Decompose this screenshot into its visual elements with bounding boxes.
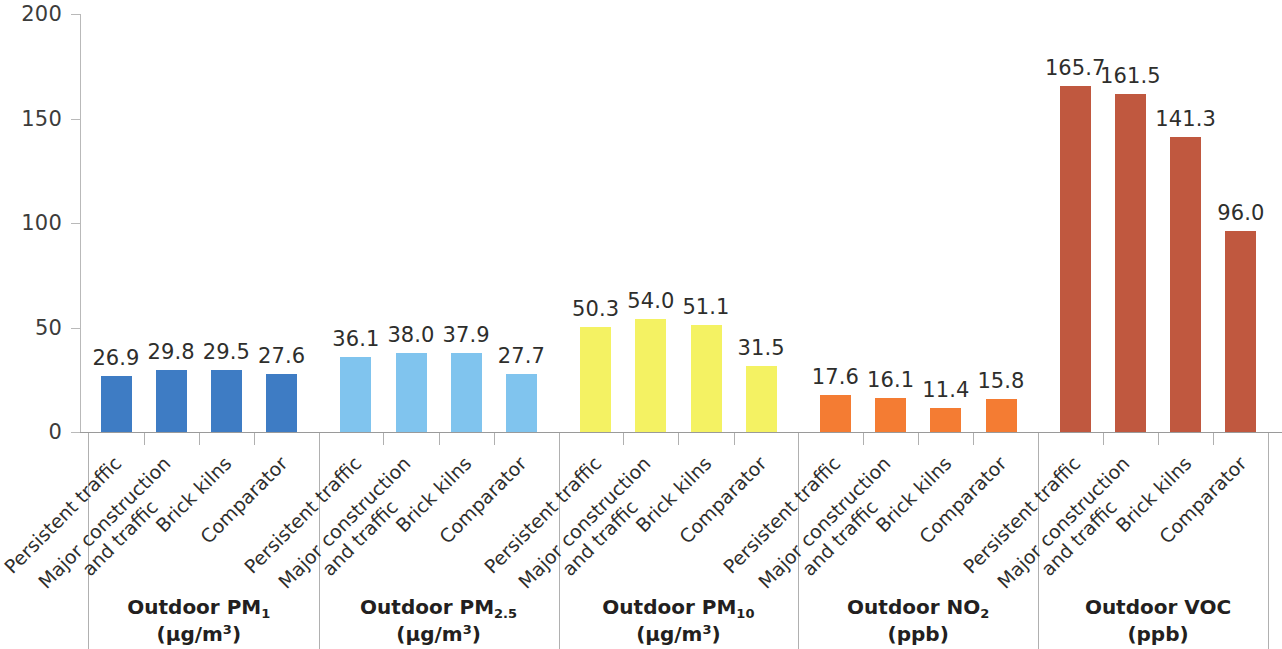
bar-value-label: 29.8 <box>148 340 195 364</box>
x-tick-mark <box>918 432 919 445</box>
group-label-unit: (µg/m3) <box>568 621 789 648</box>
bar <box>1170 137 1201 432</box>
group-label-unit: (ppb) <box>1048 621 1269 648</box>
bar <box>1225 231 1256 432</box>
bar-value-label: 165.7 <box>1045 56 1106 80</box>
x-tick-mark <box>494 432 495 445</box>
bar <box>930 408 961 432</box>
bar-value-label: 37.9 <box>443 323 490 347</box>
group-label-unit: (µg/m3) <box>328 621 549 648</box>
bar-value-label: 38.0 <box>387 323 434 347</box>
bar <box>580 327 611 432</box>
bar <box>820 395 851 432</box>
group-label-name: Outdoor NO2 <box>847 595 989 619</box>
bar-value-label: 31.5 <box>738 336 785 360</box>
group-label: Outdoor PM10(µg/m3) <box>568 594 789 648</box>
group-label: Outdoor PM1(µg/m3) <box>88 594 309 648</box>
group-label-unit: (µg/m3) <box>88 621 309 648</box>
x-tick-mark <box>973 432 974 445</box>
bar-value-label: 96.0 <box>1217 201 1264 225</box>
group-label-name: Outdoor PM2.5 <box>360 595 517 619</box>
bar-value-label: 17.6 <box>812 365 859 389</box>
bar-value-label: 16.1 <box>867 368 914 392</box>
x-tick-mark <box>734 432 735 445</box>
group-label: Outdoor PM2.5(µg/m3) <box>328 594 549 648</box>
bar-value-label: 36.1 <box>332 327 379 351</box>
bar-value-label: 27.7 <box>498 344 545 368</box>
bar-value-label: 51.1 <box>682 295 729 319</box>
x-tick-mark <box>1103 432 1104 445</box>
x-tick-mark <box>863 432 864 445</box>
group-label-unit: (ppb) <box>808 621 1029 648</box>
bar <box>635 319 666 432</box>
x-tick-mark <box>1158 432 1159 445</box>
group-label-name: Outdoor PM1 <box>127 595 270 619</box>
x-tick-mark <box>439 432 440 445</box>
bar <box>340 357 371 432</box>
group-separator <box>1268 432 1269 649</box>
y-tick-mark <box>71 432 80 433</box>
x-axis-baseline <box>80 432 1282 433</box>
x-tick-mark <box>1213 432 1214 445</box>
bar-value-label: 161.5 <box>1100 64 1161 88</box>
x-tick-mark <box>678 432 679 445</box>
x-tick-mark <box>623 432 624 445</box>
x-tick-mark <box>199 432 200 445</box>
bar-value-label: 50.3 <box>572 297 619 321</box>
bar <box>746 366 777 432</box>
bar-value-label: 26.9 <box>92 346 139 370</box>
plot-area: 26.929.829.527.636.138.037.927.750.354.0… <box>0 0 1282 432</box>
group-label: Outdoor VOC(ppb) <box>1048 594 1269 648</box>
bar <box>266 374 297 432</box>
group-label-name: Outdoor VOC <box>1085 595 1231 619</box>
bar <box>156 370 187 432</box>
bar <box>451 353 482 432</box>
bar <box>875 398 906 432</box>
bar <box>691 325 722 432</box>
bar <box>1060 86 1091 432</box>
bar-value-label: 11.4 <box>922 378 969 402</box>
bar <box>211 370 242 432</box>
x-tick-mark <box>144 432 145 445</box>
bar-value-label: 27.6 <box>258 344 305 368</box>
bar <box>986 399 1017 432</box>
bar <box>396 353 427 432</box>
bar-value-label: 141.3 <box>1155 107 1216 131</box>
bar <box>1115 94 1146 432</box>
bar-value-label: 15.8 <box>977 369 1024 393</box>
group-label-name: Outdoor PM10 <box>602 595 754 619</box>
bar <box>506 374 537 432</box>
group-label: Outdoor NO2(ppb) <box>808 594 1029 648</box>
x-tick-mark <box>254 432 255 445</box>
bar <box>101 376 132 432</box>
x-tick-mark <box>383 432 384 445</box>
bar-value-label: 54.0 <box>627 289 674 313</box>
bar-value-label: 29.5 <box>203 340 250 364</box>
bar-chart: 200150100500 26.929.829.527.636.138.037.… <box>0 0 1282 649</box>
